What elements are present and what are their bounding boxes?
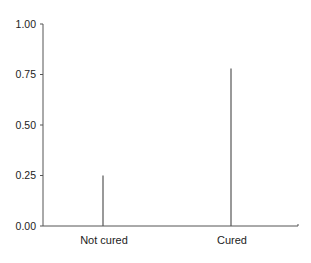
y-tick-label: 0.25	[16, 169, 37, 181]
x-axis	[43, 224, 298, 226]
y-tick-label: 0.50	[16, 119, 37, 131]
x-category-label: Cured	[217, 234, 247, 246]
y-axis: 0.000.250.500.751.00	[16, 18, 43, 232]
chart-canvas: 0.000.250.500.751.00 Not curedCured	[0, 0, 311, 263]
y-tick-label: 0.00	[16, 220, 37, 232]
category-labels: Not curedCured	[80, 234, 247, 246]
bars	[103, 68, 231, 226]
x-category-label: Not cured	[80, 234, 128, 246]
y-tick-label: 1.00	[16, 18, 37, 30]
y-tick-label: 0.75	[16, 68, 37, 80]
bar-chart: 0.000.250.500.751.00 Not curedCured	[0, 0, 311, 263]
